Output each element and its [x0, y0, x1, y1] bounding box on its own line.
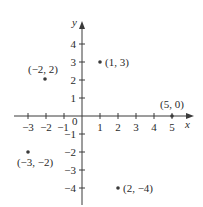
- x-tick-label: 4: [151, 121, 157, 133]
- point-neg2-2: (−2, 2): [28, 63, 58, 81]
- point-1-3: (1, 3): [98, 56, 129, 69]
- point-neg3-neg2: (−3, −2): [17, 150, 54, 169]
- y-axis-arrow-icon: [79, 21, 85, 29]
- point-label: (5, 0): [160, 98, 184, 111]
- x-tick-label: 5: [169, 121, 175, 133]
- x-tick-label: 1: [97, 121, 103, 133]
- x-axis-label: x: [184, 118, 190, 130]
- x-tick-label: 3: [133, 121, 139, 133]
- x-tick-label: 2: [115, 121, 121, 133]
- point-label: (−2, 2): [28, 63, 58, 76]
- y-tick-label: 3: [71, 56, 77, 68]
- point-2-neg4: (2, −4): [116, 182, 153, 195]
- x-tick-label: −3: [22, 121, 34, 133]
- y-tick-label: −4: [64, 182, 76, 194]
- coordinate-plane: y x 0 −3 −2 −1 1 2 3 4 5 4 3 2 1 −1 −2 −…: [0, 0, 203, 207]
- y-tick-label: 1: [71, 92, 77, 104]
- point-label: (1, 3): [105, 56, 129, 69]
- y-axis-label: y: [71, 16, 77, 28]
- point-label: (−3, −2): [17, 156, 54, 169]
- y-tick-label: −1: [64, 128, 76, 140]
- y-tick-label: 2: [71, 74, 77, 86]
- point-label: (2, −4): [123, 182, 153, 195]
- y-tick-label: 4: [71, 38, 77, 50]
- y-tick-label: −3: [64, 164, 76, 176]
- x-tick-label: −2: [40, 121, 52, 133]
- y-tick-label: −2: [64, 146, 76, 158]
- point-5-0: (5, 0): [160, 98, 184, 118]
- origin-label: 0: [72, 115, 78, 127]
